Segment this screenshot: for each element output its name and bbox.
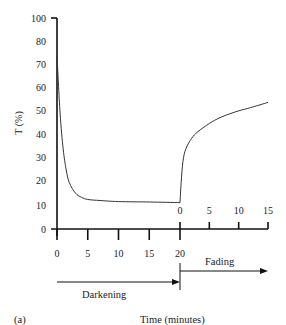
x-tick-label-darkening: 0 [55,248,60,259]
y-axis-ticks: 01020304050607080100 [31,13,46,235]
x-tick-label-fading: 10 [234,205,244,216]
y-tick-label: 10 [36,200,46,211]
darkening-label: Darkening [82,289,127,300]
x-tick-label-darkening: 15 [144,248,154,259]
x-tick-label-darkening: 20 [175,248,185,259]
fading-curve [180,102,268,202]
y-tick-label: 0 [41,224,46,235]
x-tick-label-fading: 15 [263,205,273,216]
x-tick-label-fading: 5 [207,205,212,216]
y-tick-label: 20 [36,175,46,186]
x-tick-label-darkening: 10 [114,248,124,259]
y-tick-label: 100 [31,13,46,24]
x-axis-ticks: 05101520051015 [55,205,274,259]
y-tick-label: 30 [36,152,46,163]
darkening-arrowhead-icon [172,279,180,285]
fading-arrowhead-icon [260,268,268,274]
panel-label: (a) [14,314,26,325]
x-axis-title: Time (minutes) [140,314,205,325]
x-tick-label-darkening: 5 [85,248,90,259]
y-tick-label: 50 [36,105,46,116]
x-tick-label-fading: 0 [178,205,183,216]
y-axis-title: T (%) [13,111,25,134]
darkening-curve [57,56,180,203]
y-tick-label: 40 [36,129,46,140]
y-tick-label: 60 [36,82,46,93]
fading-label: Fading [205,256,235,267]
y-tick-label: 80 [36,36,46,47]
y-tick-label: 70 [36,59,46,70]
transmittance-chart: 01020304050607080100 05101520051015 T (%… [0,0,286,325]
